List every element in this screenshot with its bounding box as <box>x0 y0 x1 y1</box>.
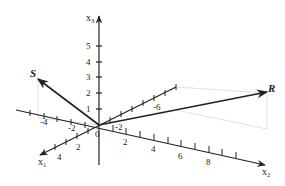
x2-tick-label: 2 <box>123 137 128 147</box>
x3-tick-label: 1 <box>86 104 91 114</box>
x2-tick-label: -4 <box>40 117 48 127</box>
x3-tick-label: 3 <box>86 72 91 82</box>
x1-tick-label: -6 <box>153 102 161 112</box>
vector-r-label: R <box>267 82 275 94</box>
x3-tick-label: 2 <box>86 88 91 98</box>
x3-tick-label: 5 <box>86 41 91 51</box>
x2-tick-label: 8 <box>206 157 211 167</box>
x2-tick-label: 4 <box>151 144 156 154</box>
x1-tick-label: -2 <box>115 122 123 132</box>
x3-tick-label: 4 <box>86 57 91 67</box>
x2-axis <box>16 110 265 165</box>
vector-diagram: 1 2 3 4 5 -4 -2 2 4 6 8 4 2 -2 -6 0 x3 x… <box>0 0 285 186</box>
x3-axis-label: x3 <box>86 12 94 24</box>
x2-axis-label: x2 <box>262 166 270 178</box>
origin-label: 0 <box>95 129 100 139</box>
x2-tick-label: -2 <box>68 123 76 133</box>
vector-r <box>99 92 267 125</box>
vector-s-label: S <box>30 67 36 79</box>
x2-tick-label: 6 <box>178 151 183 161</box>
x1-tick-label: 4 <box>57 152 62 162</box>
x1-axis-label: x1 <box>38 156 46 168</box>
x1-tick-label: 2 <box>76 142 81 152</box>
x3-axis <box>96 16 102 165</box>
